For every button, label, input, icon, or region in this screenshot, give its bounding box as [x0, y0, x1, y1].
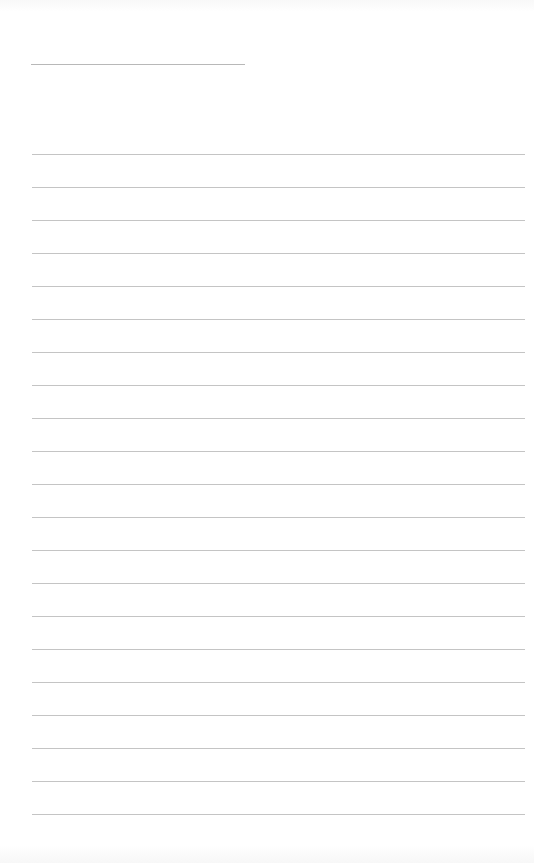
ruled-line	[32, 715, 525, 716]
title-line	[31, 64, 245, 65]
ruled-line	[32, 220, 525, 221]
ruled-line	[32, 187, 525, 188]
ruled-line	[32, 781, 525, 782]
ruled-line	[32, 253, 525, 254]
ruled-line	[32, 682, 525, 683]
ruled-line	[32, 319, 525, 320]
ruled-line	[32, 451, 525, 452]
ruled-line	[32, 550, 525, 551]
ruled-line	[32, 286, 525, 287]
ruled-line	[32, 352, 525, 353]
ruled-line	[32, 385, 525, 386]
ruled-line	[32, 484, 525, 485]
ruled-line	[32, 583, 525, 584]
ruled-line	[32, 748, 525, 749]
ruled-line	[32, 616, 525, 617]
ruled-line	[32, 649, 525, 650]
lined-paper-page	[0, 0, 534, 863]
ruled-line	[32, 517, 525, 518]
ruled-line	[32, 814, 525, 815]
ruled-line	[32, 418, 525, 419]
ruled-line	[32, 154, 525, 155]
